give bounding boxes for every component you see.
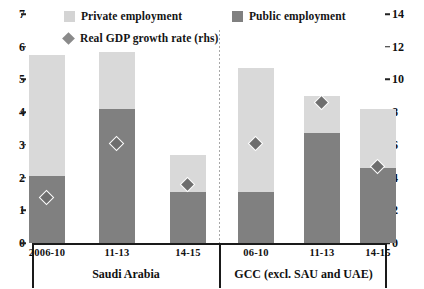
bar-segment-private-employment — [238, 68, 274, 192]
period-label-14-15: 14-15 — [344, 247, 412, 258]
group-label-gcc: GCC (excl. SAU and UAE) — [220, 267, 387, 282]
y-axis-right-tick-label: 14 — [392, 7, 404, 22]
period-label-11-13: 11-13 — [83, 247, 151, 258]
y-axis-left-tick-mark — [21, 242, 26, 244]
bar-segment-public-employment — [170, 192, 206, 243]
y-axis-left-tick-mark — [21, 79, 26, 81]
bar-11-13 — [304, 96, 340, 243]
bar-2006-10 — [29, 55, 65, 243]
y-axis-left-tick-mark — [21, 177, 26, 179]
bar-14-15 — [360, 109, 396, 243]
group-label-saudi-arabia: Saudi Arabia — [32, 267, 220, 282]
bar-06-10 — [238, 68, 274, 243]
y-axis-left-tick-mark — [21, 46, 26, 48]
bar-segment-public-employment — [304, 133, 340, 243]
y-axis-left-tick-mark — [21, 111, 26, 113]
period-label-06-10: 06-10 — [222, 247, 290, 258]
bar-segment-public-employment — [99, 109, 135, 243]
plot-area — [32, 14, 387, 243]
y-axis-right-tick-label: 12 — [392, 39, 404, 54]
period-label-14-15: 14-15 — [154, 247, 222, 258]
group-divider — [219, 30, 220, 243]
y-axis-right-tick-label: 10 — [392, 72, 404, 87]
y-axis-left-tick-mark — [21, 13, 26, 15]
bar-segment-private-employment — [99, 52, 135, 109]
bar-segment-public-employment — [238, 192, 274, 243]
bar-segment-public-employment — [360, 168, 396, 243]
y-axis-left-tick-mark — [21, 210, 26, 212]
y-axis-left-tick-mark — [21, 144, 26, 146]
period-label-2006-10: 2006-10 — [13, 247, 81, 258]
category-axis-table: Saudi Arabia GCC (excl. SAU and UAE) 200… — [32, 244, 387, 288]
bar-14-15 — [170, 155, 206, 243]
bar-segment-private-employment — [29, 55, 65, 176]
bar-segment-public-employment — [29, 176, 65, 243]
employment-gdp-chart: Private employment Public employment Rea… — [0, 0, 424, 289]
